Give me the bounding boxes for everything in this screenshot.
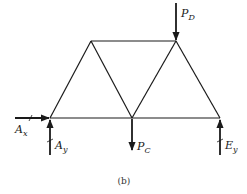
figure-caption: (b) (118, 176, 131, 186)
label-PC: PC (136, 140, 151, 155)
member-DE (176, 41, 220, 118)
member-BC (91, 41, 132, 118)
label-PD: PD (180, 7, 195, 22)
slash-marks (29, 115, 223, 142)
label-Ay: Ay (54, 139, 68, 154)
force-arrows (15, 3, 220, 155)
truss-diagram: PD PC Ax Ay Ey (b) (0, 0, 247, 194)
label-Ax: Ax (14, 123, 28, 138)
member-AB (50, 41, 91, 118)
member-CD (132, 41, 176, 118)
truss-members (50, 41, 220, 118)
label-Ey: Ey (224, 139, 238, 154)
